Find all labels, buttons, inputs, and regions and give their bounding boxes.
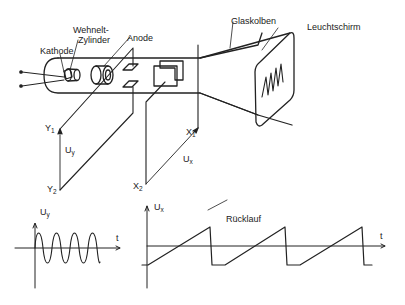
screen-trace	[262, 64, 283, 97]
label-kathode: Kathode	[40, 47, 74, 56]
label-wehnelt-line2: Zylinder	[78, 36, 110, 45]
leader-lines	[60, 22, 278, 210]
label-wehnelt-line1: Wehnelt-	[73, 26, 109, 35]
x-plate-back	[160, 61, 183, 80]
crt-diagram: Kathode Wehnelt- Zylinder Anode Glaskolb…	[0, 0, 405, 305]
label-anode: Anode	[127, 34, 153, 43]
left-plot-xlabel: t	[116, 234, 119, 243]
label-x1: X1	[186, 128, 196, 139]
label-y1: Y1	[45, 124, 55, 135]
y-plate-bottom	[123, 81, 138, 87]
cathode-leads	[22, 72, 64, 86]
right-plot-xlabel: t	[380, 232, 383, 241]
right-plot-ylabel: Ux	[154, 203, 164, 214]
left-plot-ylabel: Uy	[40, 208, 50, 219]
label-uy: Uy	[65, 146, 75, 157]
label-ux: Ux	[183, 155, 193, 166]
label-x2: X2	[133, 182, 143, 193]
y-plate-top	[123, 64, 138, 70]
left-plot-axes	[15, 223, 120, 288]
anode	[91, 66, 101, 84]
right-plot-axes	[145, 206, 385, 288]
x-plate-front	[154, 66, 177, 86]
label-leuchtschirm: Leuchtschirm	[307, 23, 361, 32]
label-glaskolben: Glaskolben	[231, 17, 276, 26]
label-y2: Y2	[47, 185, 57, 196]
label-ruecklauf: Rücklauf	[226, 215, 261, 224]
